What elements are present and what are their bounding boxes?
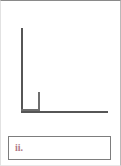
right-angle-marker-icon [21, 92, 40, 111]
worksheet-page: ii. [0, 0, 121, 166]
answer-item-label: ii. [9, 143, 23, 153]
answer-input-box[interactable]: ii. [8, 136, 111, 160]
right-angle-figure [0, 6, 121, 124]
horizontal-ray-line [21, 111, 108, 113]
